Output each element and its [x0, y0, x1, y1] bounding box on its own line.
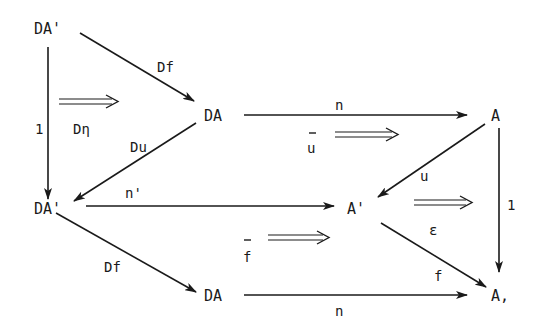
node-da-prime-mid: DA': [34, 200, 61, 218]
node-da-mid: DA: [204, 107, 222, 125]
arrow-u: [378, 124, 485, 197]
commutative-diagram: DA' DA A DA' A' DA A, Df 1 Du n u n' 1 D…: [0, 0, 544, 332]
label-f-bar: f: [243, 249, 251, 265]
label-identity-right: 1: [507, 197, 515, 213]
double-arrow-epsilon: [414, 196, 472, 209]
node-da-prime-top: DA': [34, 20, 61, 38]
label-epsilon: ε: [429, 222, 437, 238]
double-arrow-u-bar: [335, 128, 398, 141]
label-df-bottom: Df: [104, 259, 121, 275]
label-df-top: Df: [157, 59, 174, 75]
label-n-prime: n': [125, 185, 142, 201]
double-arrow-f-bar: [268, 231, 329, 244]
label-du: Du: [130, 139, 147, 155]
double-arrow-d-eta: [59, 95, 118, 108]
arrow-df-bottom: [56, 213, 196, 292]
label-f: f: [434, 268, 442, 284]
label-d-eta: Dη: [73, 121, 90, 137]
label-n-bottom: n: [335, 303, 343, 319]
label-identity-left: 1: [35, 121, 43, 137]
label-u-bar: u: [307, 140, 315, 156]
label-u: u: [420, 168, 428, 184]
label-n-top: n: [335, 97, 343, 113]
arrow-df-top: [80, 33, 194, 101]
node-a-bottom-right: A,: [491, 287, 509, 305]
node-da-bottom: DA: [204, 287, 222, 305]
node-a-top-right: A: [491, 107, 500, 125]
node-a-prime: A': [347, 200, 365, 218]
